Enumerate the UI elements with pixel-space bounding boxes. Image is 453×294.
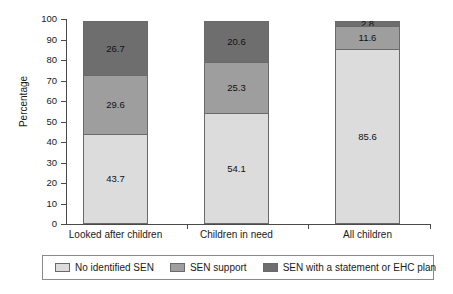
y-axis-tick-0	[61, 224, 66, 225]
legend-swatch-icon	[263, 263, 278, 272]
y-axis-tick-label-text: 90	[33, 35, 57, 45]
bar-segment-value-label: 43.7	[106, 174, 125, 184]
y-axis-tick-label-text: 0	[33, 219, 57, 229]
y-axis-tick-label-90: 90	[30, 35, 57, 45]
bar-3[interactable]: 2.811.685.6	[335, 21, 400, 224]
y-axis-tick-30	[61, 163, 66, 164]
x-axis-line	[66, 224, 431, 225]
y-axis-tick-label-text: 10	[33, 199, 57, 209]
bar-segment[interactable]: 20.6	[204, 21, 269, 63]
bar-segment[interactable]: 85.6	[335, 49, 400, 224]
y-axis-tick-50	[61, 122, 66, 123]
bar-segment[interactable]: 29.6	[83, 75, 148, 136]
bar-segment-value-label: 20.6	[227, 37, 246, 47]
y-axis-tick-label-30: 30	[30, 158, 57, 168]
y-axis-tick-40	[61, 142, 66, 143]
y-axis-tick-label-text: 70	[33, 76, 57, 86]
bar-segment-value-label: 54.1	[227, 164, 246, 174]
y-axis-tick-label-10: 10	[30, 199, 57, 209]
y-axis-tick-label-text: 80	[33, 55, 57, 65]
bar-segment-value-label: 85.6	[358, 132, 377, 142]
y-axis-tick-label-50: 50	[30, 117, 57, 127]
bar-2[interactable]: 20.625.354.1	[204, 21, 269, 224]
plot-area: 26.729.643.720.625.354.12.811.685.6	[66, 19, 430, 224]
y-axis-tick-label-60: 60	[30, 96, 57, 106]
bar-segment-value-label: 29.6	[106, 100, 125, 110]
bar-segment[interactable]: 43.7	[83, 134, 148, 224]
y-axis-tick-80	[61, 60, 66, 61]
bar-segment-value-label: 11.6	[359, 33, 377, 43]
y-axis-tick-label-text: 30	[33, 158, 57, 168]
y-axis-tick-60	[61, 101, 66, 102]
bar-segment[interactable]: 26.7	[83, 21, 148, 76]
bar-1[interactable]: 26.729.643.7	[83, 21, 148, 224]
y-axis-tick-label-text: 60	[33, 96, 57, 106]
y-axis-tick-10	[61, 204, 66, 205]
legend-label: No identified SEN	[75, 263, 154, 273]
bar-segment-value-label: 25.3	[227, 83, 246, 93]
y-axis-tick-label-text: 20	[33, 178, 57, 188]
x-axis-category-label-3: All children	[298, 229, 438, 240]
legend-label: SEN support	[190, 263, 247, 273]
y-axis-tick-label-80: 80	[30, 55, 57, 65]
x-axis-category-label-1: Looked after children	[46, 229, 186, 240]
stacked-bar-chart-figure: Percentage 0102030405060708090100 26.729…	[0, 0, 453, 294]
y-axis-tick-group: 0102030405060708090100	[0, 0, 66, 294]
chart-legend: No identified SENSEN supportSEN with a s…	[42, 255, 434, 280]
x-axis-category-label-2: Children in need	[167, 229, 307, 240]
legend-swatch-icon	[170, 263, 185, 272]
bar-segment-value-label: 26.7	[106, 44, 125, 54]
y-axis-tick-label-text: 50	[33, 117, 57, 127]
legend-item-1[interactable]: No identified SEN	[55, 263, 154, 273]
legend-item-3[interactable]: SEN with a statement or EHC plan	[263, 263, 436, 273]
bar-segment[interactable]: 54.1	[204, 113, 269, 224]
y-axis-tick-label-40: 40	[30, 137, 57, 147]
bar-segment[interactable]: 25.3	[204, 62, 269, 114]
y-axis-tick-label-0: 0	[30, 219, 57, 229]
y-axis-tick-70	[61, 81, 66, 82]
y-axis-tick-100	[61, 19, 66, 20]
y-axis-tick-label-20: 20	[30, 178, 57, 188]
y-axis-tick-90	[61, 40, 66, 41]
bar-segment[interactable]: 11.6	[335, 26, 400, 50]
y-axis-tick-label-text: 40	[33, 137, 57, 147]
legend-label: SEN with a statement or EHC plan	[283, 263, 436, 273]
legend-item-2[interactable]: SEN support	[170, 263, 247, 273]
legend-swatch-icon	[55, 263, 70, 272]
y-axis-tick-20	[61, 183, 66, 184]
y-axis-tick-label-100: 100	[30, 14, 57, 24]
y-axis-tick-label-text: 100	[33, 14, 57, 24]
y-axis-tick-label-70: 70	[30, 76, 57, 86]
